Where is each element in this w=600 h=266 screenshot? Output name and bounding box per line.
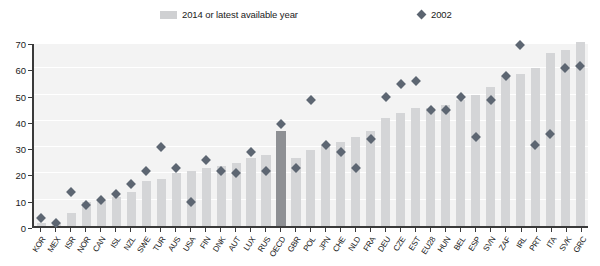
data-point-marker[interactable] — [37, 213, 47, 223]
bar-slot[interactable] — [318, 44, 333, 226]
bar[interactable] — [67, 213, 76, 226]
bar[interactable] — [246, 158, 255, 226]
bar-slot[interactable] — [423, 44, 438, 226]
data-point-marker[interactable] — [306, 95, 316, 105]
bar-slot[interactable] — [214, 44, 229, 226]
bar-slot[interactable] — [259, 44, 274, 226]
data-point-marker[interactable] — [156, 142, 166, 152]
bar-slot[interactable] — [378, 44, 393, 226]
data-point-marker[interactable] — [516, 40, 526, 50]
bar-slot[interactable] — [94, 44, 109, 226]
bar-slot[interactable] — [244, 44, 259, 226]
data-point-marker[interactable] — [66, 187, 76, 197]
data-point-marker[interactable] — [201, 155, 211, 165]
bar-slot[interactable] — [393, 44, 408, 226]
gridline — [34, 41, 588, 42]
bar-slot[interactable] — [64, 44, 79, 226]
bar[interactable] — [306, 150, 315, 226]
x-axis-slot: BEL — [453, 230, 468, 266]
x-axis-slot: NLD — [348, 230, 363, 266]
bar[interactable] — [157, 179, 166, 226]
bar[interactable] — [381, 118, 390, 226]
x-tick-mark — [235, 228, 236, 232]
x-axis-slot: USA — [182, 230, 197, 266]
x-tick-label: JPN — [317, 235, 332, 252]
data-point-marker[interactable] — [396, 79, 406, 89]
bar[interactable] — [426, 108, 435, 226]
bar-slot[interactable] — [528, 44, 543, 226]
bar[interactable] — [276, 131, 285, 226]
bar[interactable] — [172, 173, 181, 226]
bar-slot[interactable] — [348, 44, 363, 226]
bar[interactable] — [456, 100, 465, 226]
bar[interactable] — [351, 137, 360, 226]
data-point-marker[interactable] — [381, 92, 391, 102]
bar-slot[interactable] — [49, 44, 64, 226]
x-axis-slot: ISL — [107, 230, 122, 266]
x-axis-slot: ZAF — [498, 230, 513, 266]
data-point-marker[interactable] — [126, 179, 136, 189]
bar-slot[interactable] — [124, 44, 139, 226]
bar-slot[interactable] — [408, 44, 423, 226]
bar-slot[interactable] — [573, 44, 588, 226]
bar[interactable] — [112, 197, 121, 226]
bar-slot[interactable] — [303, 44, 318, 226]
bar[interactable] — [546, 53, 555, 226]
data-point-marker[interactable] — [276, 119, 286, 129]
bar[interactable] — [37, 223, 46, 226]
legend-label-markers: 2002 — [431, 9, 452, 20]
x-tick-mark — [415, 228, 416, 232]
bar[interactable] — [396, 113, 405, 226]
bar-slot[interactable] — [543, 44, 558, 226]
bar-slot[interactable] — [288, 44, 303, 226]
bar-slot[interactable] — [154, 44, 169, 226]
bar-slot[interactable] — [79, 44, 94, 226]
bar-slot[interactable] — [513, 44, 528, 226]
bar[interactable] — [202, 168, 211, 226]
bar-slot[interactable] — [34, 44, 49, 226]
bar-slot[interactable] — [498, 44, 513, 226]
bar-slot[interactable] — [139, 44, 154, 226]
x-axis-slot: GRC — [573, 230, 588, 266]
x-tick-label: HUN — [436, 235, 453, 254]
x-axis-slot: DNK — [212, 230, 227, 266]
data-point-marker[interactable] — [52, 218, 62, 228]
x-tick-label: LUX — [242, 235, 258, 252]
bar-slot[interactable] — [229, 44, 244, 226]
bar-slot[interactable] — [274, 44, 289, 226]
bar-slot[interactable] — [199, 44, 214, 226]
bar[interactable] — [142, 181, 151, 226]
bar-slot[interactable] — [169, 44, 184, 226]
bar[interactable] — [486, 87, 495, 226]
bar[interactable] — [471, 95, 480, 226]
bar[interactable] — [441, 105, 450, 226]
bar[interactable] — [366, 131, 375, 226]
x-tick-mark — [205, 228, 206, 232]
bar[interactable] — [127, 192, 136, 226]
x-tick-mark — [175, 228, 176, 232]
bar-slot[interactable] — [558, 44, 573, 226]
bar-slot[interactable] — [453, 44, 468, 226]
x-tick-mark — [551, 228, 552, 232]
bar-slot[interactable] — [468, 44, 483, 226]
bar-slot[interactable] — [109, 44, 124, 226]
bar[interactable] — [516, 74, 525, 226]
y-axis: 010203040506070 — [0, 44, 32, 228]
data-point-marker[interactable] — [171, 163, 181, 173]
bar-slot[interactable] — [438, 44, 453, 226]
bar[interactable] — [321, 145, 330, 226]
y-tick-label: 0 — [21, 223, 26, 234]
x-tick-mark — [340, 228, 341, 232]
bar[interactable] — [561, 50, 570, 226]
bar[interactable] — [501, 76, 510, 226]
data-point-marker[interactable] — [246, 147, 256, 157]
x-axis-slot: PRT — [528, 230, 543, 266]
bar-slot[interactable] — [184, 44, 199, 226]
bar-slot[interactable] — [333, 44, 348, 226]
data-point-marker[interactable] — [141, 166, 151, 176]
legend-label-bars: 2014 or latest available year — [182, 9, 298, 20]
bar-slot[interactable] — [363, 44, 378, 226]
bar-slot[interactable] — [483, 44, 498, 226]
bar[interactable] — [411, 108, 420, 226]
data-point-marker[interactable] — [411, 76, 421, 86]
